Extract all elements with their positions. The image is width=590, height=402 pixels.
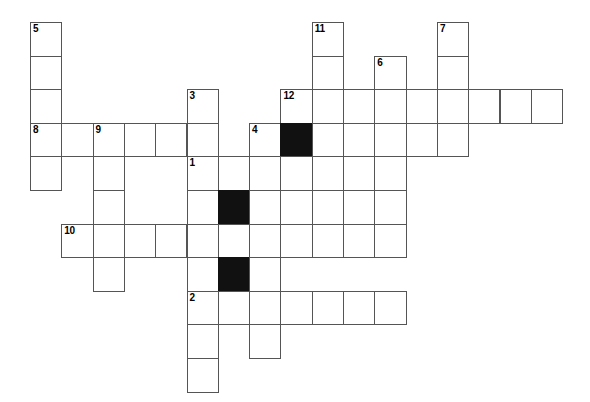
crossword-cell[interactable] — [531, 89, 563, 124]
crossword-cell[interactable] — [280, 190, 312, 225]
crossword-cell[interactable] — [374, 89, 406, 124]
clue-number-8: 8 — [33, 124, 38, 135]
crossword-cell[interactable] — [218, 156, 250, 191]
crossword-cell[interactable]: 11 — [312, 22, 344, 57]
crossword-cell[interactable] — [93, 190, 125, 225]
clue-number-9: 9 — [96, 124, 101, 135]
crossword-cell[interactable] — [124, 224, 156, 259]
crossword-cell[interactable] — [187, 257, 219, 292]
crossword-cell[interactable] — [249, 291, 281, 326]
crossword-cell[interactable] — [343, 123, 375, 158]
crossword-cell[interactable] — [187, 324, 219, 359]
crossword-cell[interactable] — [30, 56, 62, 91]
crossword-cell[interactable] — [280, 224, 312, 259]
crossword-cell[interactable] — [187, 190, 219, 225]
crossword-cell[interactable] — [312, 156, 344, 191]
crossword-grid[interactable]: 581176312941102 — [0, 0, 590, 402]
crossword-cell[interactable] — [155, 123, 187, 158]
crossword-cell[interactable] — [406, 89, 438, 124]
crossword-cell[interactable] — [187, 358, 219, 393]
clue-number-11: 11 — [315, 23, 325, 34]
crossword-cell[interactable] — [30, 89, 62, 124]
clue-number-5: 5 — [33, 23, 38, 34]
crossword-cell[interactable] — [249, 224, 281, 259]
crossword-cell[interactable] — [312, 89, 344, 124]
crossword-cell[interactable] — [374, 123, 406, 158]
crossword-cell[interactable] — [93, 156, 125, 191]
clue-number-1: 1 — [190, 157, 195, 168]
crossword-cell[interactable]: 12 — [280, 89, 312, 124]
clue-number-2: 2 — [190, 292, 195, 303]
crossword-cell[interactable]: 9 — [93, 123, 125, 158]
crossword-cell[interactable] — [406, 123, 438, 158]
crossword-cell[interactable] — [124, 123, 156, 158]
crossword-cell[interactable] — [187, 224, 219, 259]
crossword-cell[interactable] — [61, 123, 93, 158]
crossword-cell[interactable] — [374, 190, 406, 225]
crossword-cell[interactable] — [280, 291, 312, 326]
crossword-cell[interactable] — [30, 156, 62, 191]
clue-number-6: 6 — [377, 57, 382, 68]
clue-number-12: 12 — [283, 90, 294, 101]
crossword-cell[interactable] — [312, 224, 344, 259]
crossword-cell[interactable] — [374, 156, 406, 191]
crossword-cell[interactable] — [312, 56, 344, 91]
crossword-cell[interactable] — [468, 89, 500, 124]
crossword-cell[interactable] — [343, 291, 375, 326]
crossword-cell[interactable]: 3 — [187, 89, 219, 124]
crossword-block-cell — [218, 257, 250, 292]
crossword-cell[interactable] — [93, 257, 125, 292]
crossword-cell[interactable] — [343, 224, 375, 259]
crossword-cell[interactable] — [343, 156, 375, 191]
crossword-cell[interactable] — [249, 257, 281, 292]
crossword-cell[interactable]: 4 — [249, 123, 281, 158]
crossword-cell[interactable] — [437, 56, 469, 91]
crossword-cell[interactable] — [312, 190, 344, 225]
crossword-cell[interactable] — [500, 89, 532, 124]
crossword-cell[interactable] — [280, 156, 312, 191]
crossword-cell[interactable]: 1 — [187, 156, 219, 191]
crossword-cell[interactable] — [437, 89, 469, 124]
crossword-cell[interactable] — [155, 224, 187, 259]
crossword-cell[interactable]: 5 — [30, 22, 62, 57]
crossword-block-cell — [218, 190, 250, 225]
crossword-cell[interactable] — [93, 224, 125, 259]
crossword-cell[interactable] — [312, 123, 344, 158]
crossword-block-cell — [280, 123, 312, 158]
clue-number-7: 7 — [440, 23, 445, 34]
crossword-cell[interactable] — [249, 156, 281, 191]
crossword-cell[interactable] — [312, 291, 344, 326]
crossword-cell[interactable] — [218, 224, 250, 259]
clue-number-4: 4 — [252, 124, 257, 135]
crossword-cell[interactable] — [343, 190, 375, 225]
crossword-cell[interactable] — [437, 123, 469, 158]
crossword-cell[interactable]: 7 — [437, 22, 469, 57]
crossword-cell[interactable] — [343, 89, 375, 124]
crossword-cell[interactable] — [187, 123, 219, 158]
clue-number-3: 3 — [190, 90, 195, 101]
crossword-cell[interactable] — [374, 224, 406, 259]
crossword-cell[interactable]: 2 — [187, 291, 219, 326]
crossword-cell[interactable] — [249, 324, 281, 359]
clue-number-10: 10 — [64, 225, 75, 236]
crossword-cell[interactable]: 6 — [374, 56, 406, 91]
crossword-cell[interactable] — [218, 291, 250, 326]
crossword-cell[interactable]: 10 — [61, 224, 93, 259]
crossword-cell[interactable] — [249, 190, 281, 225]
crossword-cell[interactable] — [374, 291, 406, 326]
crossword-cell[interactable]: 8 — [30, 123, 62, 158]
